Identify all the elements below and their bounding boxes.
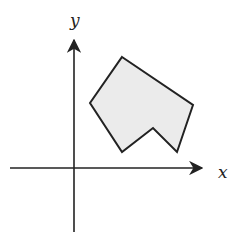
y-axis-label: y — [69, 10, 80, 30]
x-axis-label: x — [218, 162, 228, 182]
shaded-polygon — [90, 57, 193, 152]
coordinate-diagram: x y — [0, 0, 240, 239]
